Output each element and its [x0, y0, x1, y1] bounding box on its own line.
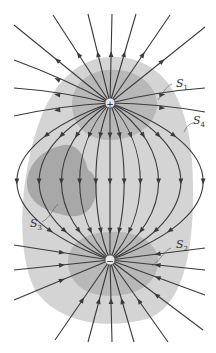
dipole-diagram: + − S1 S4 S3 S2: [0, 0, 216, 353]
label-s4: S4: [193, 114, 206, 129]
svg-text:−: −: [106, 256, 114, 266]
svg-text:+: +: [106, 99, 114, 109]
label-s1: S1: [176, 77, 188, 92]
positive-charge: +: [105, 98, 115, 109]
negative-charge: −: [105, 255, 115, 266]
